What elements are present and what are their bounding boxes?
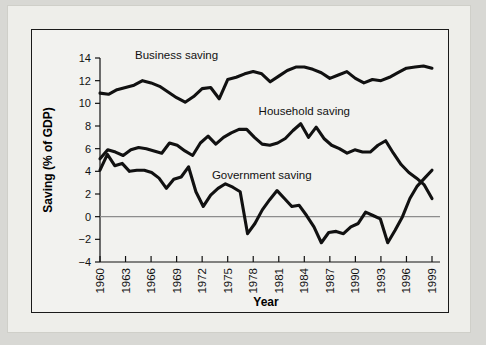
series-label-business-saving: Business saving bbox=[135, 49, 218, 61]
x-tick-label: 1999 bbox=[426, 268, 438, 294]
x-tick-label: 1996 bbox=[400, 268, 412, 294]
x-tick-label: 1969 bbox=[171, 268, 183, 294]
x-tick-label: 1966 bbox=[145, 268, 157, 294]
saving-line-chart: −4−202468101214 196019631966196919721975… bbox=[32, 30, 447, 311]
series-label-government-saving: Government saving bbox=[212, 169, 312, 181]
x-tick-label: 1960 bbox=[94, 268, 106, 294]
x-axis: 1960196319661969197219751978198119841987… bbox=[94, 256, 440, 294]
y-tick-label: 10 bbox=[79, 97, 91, 109]
x-tick-label: 1984 bbox=[298, 267, 310, 293]
series-label-household-saving: Household saving bbox=[259, 105, 350, 117]
y-tick-label: −4 bbox=[78, 256, 91, 268]
series-line-business-saving bbox=[100, 66, 432, 102]
x-tick-label: 1975 bbox=[222, 268, 234, 294]
x-tick-label: 1987 bbox=[324, 268, 336, 294]
y-tick-label: 8 bbox=[85, 120, 91, 132]
y-axis: −4−202468101214 bbox=[78, 52, 100, 268]
y-axis-title: Saving (% of GDP) bbox=[41, 107, 55, 212]
series-line-household-saving bbox=[100, 124, 432, 199]
x-tick-label: 1963 bbox=[120, 268, 132, 294]
x-axis-title: Year bbox=[253, 295, 279, 309]
x-tick-label: 1990 bbox=[349, 268, 361, 294]
x-tick-label: 1978 bbox=[247, 268, 259, 294]
chart-frame: −4−202468101214 196019631966196919721975… bbox=[31, 29, 449, 313]
y-tick-label: 12 bbox=[79, 75, 91, 87]
figure-root: −4−202468101214 196019631966196919721975… bbox=[0, 0, 486, 345]
x-tick-label: 1981 bbox=[273, 268, 285, 294]
series-labels: Business savingHousehold savingGovernmen… bbox=[135, 49, 350, 181]
y-tick-label: 6 bbox=[85, 143, 91, 155]
x-tick-label: 1972 bbox=[196, 268, 208, 294]
x-tick-label: 1993 bbox=[375, 268, 387, 294]
y-tick-label: 2 bbox=[85, 188, 91, 200]
y-tick-label: 14 bbox=[79, 52, 91, 64]
y-tick-label: −2 bbox=[78, 233, 91, 245]
page-surface: −4−202468101214 196019631966196919721975… bbox=[8, 6, 470, 332]
y-tick-label: 0 bbox=[85, 211, 91, 223]
series-line-government-saving bbox=[100, 154, 432, 242]
y-tick-label: 4 bbox=[85, 165, 91, 177]
